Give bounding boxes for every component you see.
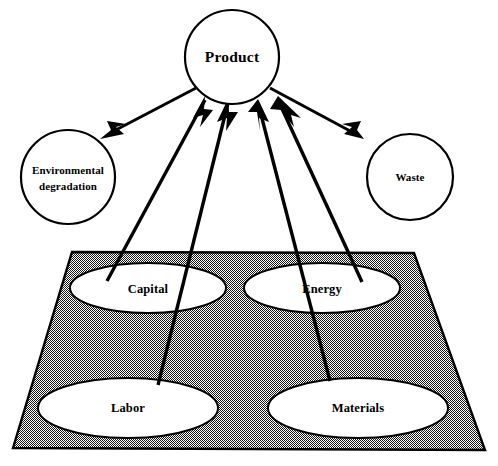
product-to-environmental-degradation-line bbox=[112, 88, 196, 132]
production-system-diagram: Product Environmental degradation Waste … bbox=[0, 0, 498, 466]
energy-ellipse bbox=[244, 263, 400, 313]
materials-ellipse bbox=[268, 378, 448, 438]
labor-ellipse bbox=[38, 378, 218, 438]
capital-ellipse bbox=[70, 263, 226, 313]
waste-node: Waste bbox=[367, 134, 453, 220]
waste-circle bbox=[367, 134, 453, 220]
environmental-degradation-node: Environmental degradation bbox=[21, 130, 115, 224]
environmental-degradation-arrow-head bbox=[100, 121, 126, 139]
product-circle bbox=[185, 10, 279, 104]
capital-arrow-head bbox=[193, 96, 213, 127]
materials-arrow-head bbox=[248, 99, 269, 131]
diagram-canvas: Product Environmental degradation Waste … bbox=[0, 0, 498, 466]
product-node: Product bbox=[185, 10, 279, 104]
environmental-degradation-circle bbox=[21, 130, 115, 224]
